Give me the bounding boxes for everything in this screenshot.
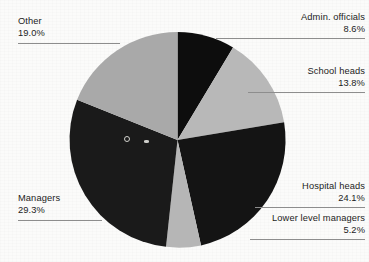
callout-other: Other 19.0% (18, 15, 45, 39)
leader-line-hospital-heads (255, 207, 365, 208)
pie-slices (70, 32, 286, 248)
callout-lower-level-managers: Lower level managers 5.2% (272, 212, 365, 236)
callout-category-label: Lower level managers (272, 212, 365, 224)
leader-line-admin-officials (216, 38, 365, 39)
leader-line-managers (18, 220, 102, 221)
callout-category-label: Managers (18, 192, 60, 204)
callout-category-label: Hospital heads (302, 180, 365, 192)
scan-speck (124, 136, 130, 142)
leader-line-lower-level-managers (250, 239, 365, 240)
callout-percent-value: 29.3% (18, 204, 60, 216)
callout-managers: Managers 29.3% (18, 192, 60, 216)
callout-school-heads: School heads 13.8% (307, 65, 365, 89)
leader-line-other (18, 43, 120, 44)
callout-admin-officials: Admin. officials 8.6% (301, 11, 365, 35)
callout-percent-value: 5.2% (272, 224, 365, 236)
chart-plot-area: Admin. officials 8.6% School heads 13.8%… (0, 0, 369, 262)
callout-percent-value: 8.6% (301, 23, 365, 35)
pie-chart-figure: Admin. officials 8.6% School heads 13.8%… (0, 0, 369, 262)
callout-percent-value: 24.1% (302, 192, 365, 204)
callout-hospital-heads: Hospital heads 24.1% (302, 180, 365, 204)
callout-category-label: Admin. officials (301, 11, 365, 23)
callout-percent-value: 19.0% (18, 27, 45, 39)
leader-line-school-heads (248, 92, 365, 93)
scan-speck (144, 140, 149, 143)
callout-category-label: Other (18, 15, 45, 27)
callout-category-label: School heads (307, 65, 365, 77)
callout-percent-value: 13.8% (307, 77, 365, 89)
